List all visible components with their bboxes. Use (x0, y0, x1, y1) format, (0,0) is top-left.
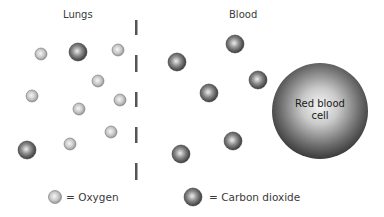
co2-molecule-icon (168, 53, 186, 71)
oxygen-molecule-icon (35, 48, 47, 60)
legend-oxygen-icon (49, 191, 62, 204)
membrane-dash (135, 92, 138, 107)
co2-molecule-icon (249, 71, 267, 89)
oxygen-molecule-icon (26, 90, 38, 102)
co2-molecule-icon (69, 43, 87, 61)
oxygen-molecule-icon (92, 75, 104, 87)
co2-molecule-icon (224, 132, 242, 150)
oxygen-molecule-icon (73, 103, 85, 115)
membrane-dashed-line (135, 20, 138, 180)
red-blood-cell-label: Red blood cell (282, 98, 358, 122)
membrane-dash (135, 55, 138, 72)
co2-molecule-icon (200, 84, 218, 102)
oxygen-molecule-icon (112, 44, 124, 56)
co2-molecule-icon (226, 35, 244, 53)
co2-molecules (18, 35, 267, 163)
blood-heading: Blood (229, 9, 257, 21)
membrane-dash (135, 163, 138, 180)
legend-co2-icon (184, 188, 202, 206)
membrane-dash (135, 127, 138, 143)
oxygen-molecule-icon (114, 94, 126, 106)
legend-co2-label: = Carbon dioxide (209, 191, 300, 203)
oxygen-molecule-icon (64, 138, 76, 150)
co2-molecule-icon (172, 145, 190, 163)
rbc-label-line1: Red blood (282, 98, 358, 110)
rbc-label-line2: cell (282, 110, 358, 122)
oxygen-molecule-icon (105, 126, 117, 138)
lungs-heading: Lungs (63, 9, 93, 21)
legend-oxygen-label: = Oxygen (66, 191, 119, 203)
co2-molecule-icon (18, 141, 36, 159)
membrane-dash (135, 20, 138, 35)
